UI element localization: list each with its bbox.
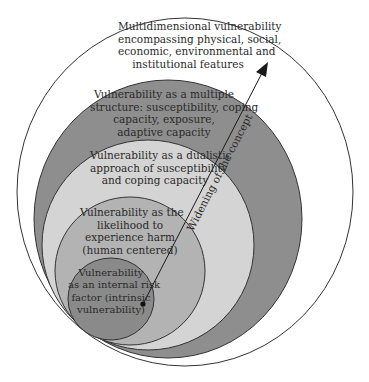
label-line: experience harm <box>80 231 180 244</box>
label-line: economic, environmental and <box>118 45 258 58</box>
label-line: (human centered) <box>80 244 180 257</box>
label-line: Multidimensional vulnerability <box>118 20 258 33</box>
label-line: Vulnerability as a dualistic <box>90 149 220 162</box>
label-likelihood: Vulnerability as the likelihood to exper… <box>80 206 180 256</box>
label-line: capacity, exposure, <box>90 113 238 126</box>
label-line: adaptive capacity <box>90 126 238 139</box>
label-line: encompassing physical, social, <box>118 33 258 46</box>
label-line: approach of susceptibility <box>90 162 220 175</box>
label-line: likelihood to <box>80 219 180 232</box>
label-line: vulnerability) <box>68 304 154 316</box>
label-multiple-structure: Vulnerability as a multiple structure: s… <box>90 88 238 138</box>
label-line: Vulnerability as a multiple <box>90 88 238 101</box>
label-line: institutional features <box>118 58 258 71</box>
label-internal-risk: Vulnerability as an internal risk factor… <box>68 267 154 317</box>
label-line: as an internal risk <box>68 279 154 291</box>
label-multidimensional: Multidimensional vulnerability encompass… <box>118 20 258 70</box>
label-dualistic: Vulnerability as a dualistic approach of… <box>90 149 220 187</box>
label-line: Vulnerability <box>68 267 154 279</box>
label-line: structure: susceptibility, coping <box>90 101 238 114</box>
label-line: and coping capacity <box>90 174 220 187</box>
label-line: Vulnerability as the <box>80 206 180 219</box>
label-line: factor (intrinsic <box>68 292 154 304</box>
